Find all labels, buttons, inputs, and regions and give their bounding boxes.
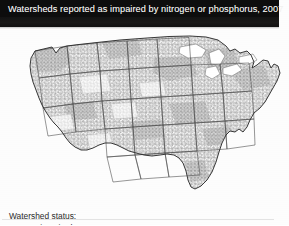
us-watershed-choropleth [4, 29, 287, 201]
figure-title: Watersheds reported as impaired by nitro… [8, 4, 283, 15]
figure-watershed-impairment-map: Watersheds reported as impaired by nitro… [0, 0, 289, 225]
scan-artifact-line [2, 219, 274, 220]
legend-label-not-impaired: Not impaired [25, 224, 72, 226]
legend-swatch-not-impaired [9, 225, 21, 226]
title-bar-sheen [0, 17, 279, 27]
map-legend: Watershed status: Not impaired Impaired [9, 211, 121, 225]
figure-title-bar: Watersheds reported as impaired by nitro… [0, 0, 279, 27]
legend-item-not-impaired: Not impaired [9, 223, 121, 225]
map-area: Watershed status: Not impaired Impaired [0, 29, 289, 225]
map-land-fill [4, 29, 287, 201]
